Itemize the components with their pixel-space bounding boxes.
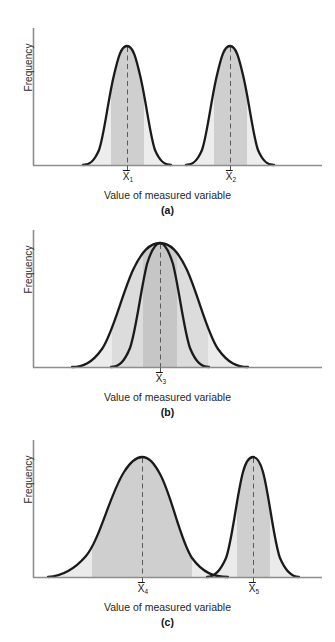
plot-area-a <box>0 20 335 170</box>
axis-label-y-b: Frequency <box>23 220 34 320</box>
panel-b: Frequency <box>0 222 335 418</box>
figure-normal-distributions: Frequency <box>0 0 335 642</box>
mean-label-x2: X2 <box>226 171 236 182</box>
panel-c: Frequency <box>0 432 335 638</box>
axis-label-x-a: Value of measured variable <box>0 189 335 201</box>
plot-area-c <box>0 432 335 584</box>
mean-label-x5: X5 <box>249 583 259 594</box>
axis-label-y-a: Frequency <box>23 18 34 118</box>
mean-label-x4: X4 <box>138 583 148 594</box>
shaded-region-a1 <box>80 20 175 170</box>
panel-caption-c: (c) <box>0 616 335 628</box>
panel-caption-a: (a) <box>0 204 335 216</box>
mean-label-x3: X3 <box>156 373 166 384</box>
shaded-region-a2 <box>183 20 278 170</box>
shaded-region-c-wide <box>44 432 234 584</box>
axis-label-x-b: Value of measured variable <box>0 391 335 403</box>
axis-label-y-c: Frequency <box>23 430 34 530</box>
plot-area-b <box>0 222 335 372</box>
panel-a: Frequency <box>0 20 335 216</box>
mean-label-x1: X1 <box>123 171 133 182</box>
axis-label-x-c: Value of measured variable <box>0 601 335 613</box>
panel-caption-b: (b) <box>0 406 335 418</box>
